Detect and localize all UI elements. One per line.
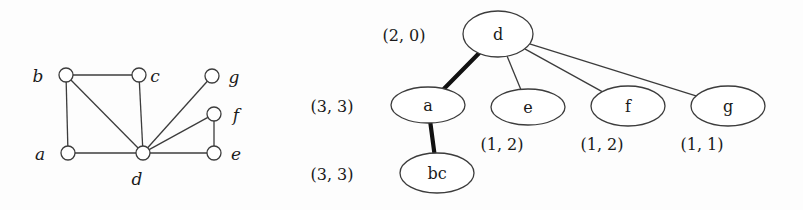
graph-edge-b-a [66, 82, 68, 146]
graph-vertex-d[interactable] [136, 146, 150, 160]
figure-canvas: bcgfade daefgbc (2, 0)(3, 3)(1, 2)(1, 2)… [0, 0, 803, 210]
graph-vertex-label-g: g [229, 67, 240, 87]
tree-node-pair-f: (1, 2) [580, 135, 623, 154]
graph-vertex-e[interactable] [207, 146, 221, 160]
graph-vertex-f[interactable] [207, 107, 221, 121]
tree-node-pair-d: (2, 0) [382, 26, 425, 45]
tree-edge-d-f [525, 49, 602, 92]
graph-edge-b-d [71, 80, 138, 148]
tree-node-pair-bc: (3, 3) [310, 165, 353, 184]
graph-edge-layer [66, 75, 214, 153]
tree-decomposition: daefgbc (2, 0)(3, 3)(1, 2)(1, 2)(1, 1)(3… [290, 0, 803, 210]
tree-node-layer [391, 11, 765, 193]
graph-vertex-b[interactable] [59, 68, 73, 82]
graph-edge-c-d [139, 82, 142, 146]
tree-node-label-bc: bc [427, 164, 446, 183]
graph-label-layer: bcgfade [33, 66, 242, 189]
graph-edge-d-f [149, 117, 208, 149]
tree-edge-a-bc [430, 123, 434, 153]
tree-node-pair-g: (1, 1) [680, 135, 723, 154]
tree-node-label-d: d [493, 25, 503, 44]
graph-vertex-g[interactable] [205, 69, 219, 83]
graph-vertex-c[interactable] [132, 68, 146, 82]
graph-vertex-label-d: d [132, 169, 143, 189]
tree-node-pair-e: (1, 2) [480, 135, 523, 154]
tree-node-label-e: e [523, 98, 532, 117]
tree-node-pair-a: (3, 3) [310, 97, 353, 116]
graph-vertex-label-e: e [231, 144, 241, 164]
tree-node-label-a: a [423, 96, 433, 115]
graph-vertex-label-b: b [33, 66, 44, 86]
graph-vertex-layer [59, 68, 221, 160]
graph-vertex-a[interactable] [61, 146, 75, 160]
graph-vertex-label-c: c [150, 66, 160, 86]
input-graph: bcgfade [0, 0, 290, 210]
tree-edge-d-a [444, 53, 479, 88]
tree-label-layer: daefgbc [423, 25, 733, 183]
graph-vertex-label-a: a [35, 144, 45, 164]
tree-node-label-g: g [723, 97, 733, 116]
graph-vertex-label-f: f [231, 105, 242, 125]
tree-edge-d-e [507, 56, 521, 89]
graph-edge-d-g [148, 81, 208, 148]
